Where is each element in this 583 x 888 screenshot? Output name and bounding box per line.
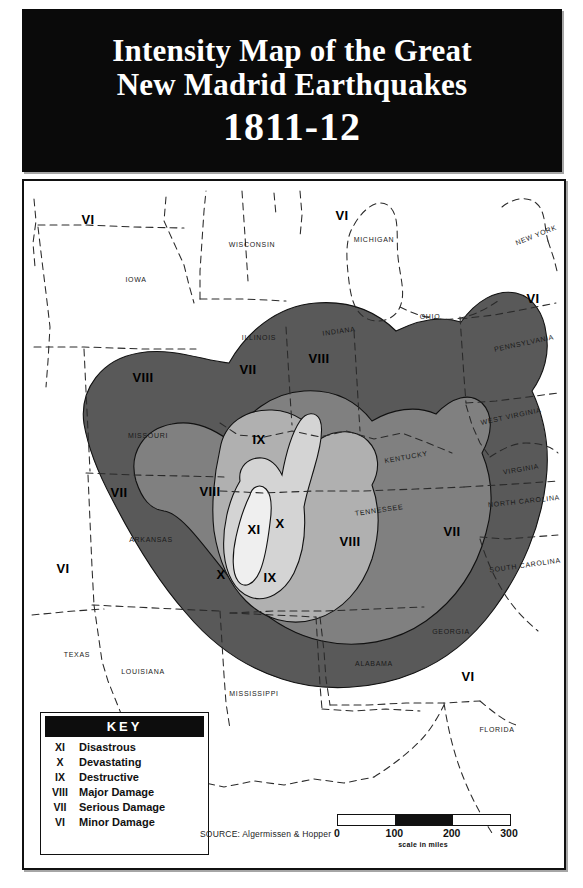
- state-label: ALABAMA: [355, 660, 393, 667]
- key-description: Minor Damage: [79, 816, 208, 828]
- intensity-label: VII: [443, 524, 460, 539]
- key-rows: XIDisastrousXDevastatingIXDestructiveVII…: [41, 739, 208, 829]
- map-frame: WISCONSINMICHIGANNEW YORKIOWAILLINOISIND…: [22, 179, 566, 870]
- title-year: 1811-12: [223, 107, 361, 148]
- intensity-label: VI: [335, 208, 348, 223]
- key-roman: VI: [41, 816, 79, 828]
- intensity-label: XI: [247, 522, 260, 537]
- intensity-label: VIII: [132, 370, 153, 385]
- state-label: FLORIDA: [479, 726, 514, 733]
- title-banner: Intensity Map of the Great New Madrid Ea…: [22, 9, 562, 172]
- key-roman: IX: [41, 771, 79, 783]
- title-line-2: New Madrid Earthquakes: [117, 69, 468, 101]
- key-header: KEY: [45, 716, 204, 737]
- scale-segment: [338, 815, 395, 825]
- key-row: VIISerious Damage: [41, 799, 208, 814]
- key-description: Serious Damage: [79, 801, 208, 813]
- intensity-label: VII: [239, 362, 256, 377]
- key-roman: VIII: [41, 786, 79, 798]
- state-label: ILLINOIS: [242, 334, 276, 341]
- intensity-label: VI: [461, 669, 474, 684]
- source-note: SOURCE: Algermissen & Hopper: [200, 829, 331, 839]
- scale-tick-label: 0: [334, 827, 340, 839]
- key-description: Major Damage: [79, 786, 208, 798]
- title-line-1: Intensity Map of the Great: [112, 35, 471, 67]
- state-label: LOUISIANA: [121, 668, 165, 675]
- intensity-label: VIII: [199, 484, 220, 499]
- intensity-label: VI: [56, 561, 69, 576]
- scale-segment: [453, 815, 510, 825]
- key-row: XIDisastrous: [41, 739, 208, 754]
- intensity-label: X: [275, 516, 284, 531]
- key-roman: XI: [41, 741, 79, 753]
- key-row: VIIIMajor Damage: [41, 784, 208, 799]
- intensity-label: X: [216, 567, 225, 582]
- state-label: TEXAS: [64, 651, 90, 658]
- intensity-label: VIII: [308, 351, 329, 366]
- intensity-label: IX: [263, 570, 276, 585]
- state-label: WISCONSIN: [229, 241, 276, 248]
- state-label: GEORGIA: [432, 628, 470, 635]
- key-row: VIMinor Damage: [41, 814, 208, 829]
- key-description: Devastating: [79, 756, 208, 768]
- key-roman: X: [41, 756, 79, 768]
- state-label: IOWA: [125, 276, 146, 283]
- key-roman: VII: [41, 801, 79, 813]
- key-legend-box: KEY XIDisastrousXDevastatingIXDestructiv…: [40, 712, 209, 855]
- key-row: XDevastating: [41, 754, 208, 769]
- state-label: ARKANSAS: [129, 536, 173, 543]
- scale-caption: scale in miles: [337, 841, 509, 848]
- intensity-label: VI: [526, 291, 539, 306]
- state-label: OHIO: [420, 313, 441, 320]
- scale-bar-group: 0100200300 scale in miles: [337, 814, 513, 848]
- scale-tick-label: 300: [500, 827, 518, 839]
- scale-tick-labels: 0100200300: [337, 827, 509, 840]
- state-label: MICHIGAN: [354, 236, 395, 243]
- key-description: Destructive: [79, 771, 208, 783]
- scale-bar: [337, 814, 511, 826]
- scale-segment: [395, 815, 452, 825]
- intensity-label: VII: [110, 485, 127, 500]
- state-label: MISSOURI: [128, 432, 168, 439]
- intensity-label: VIII: [339, 534, 360, 549]
- poster-page: Intensity Map of the Great New Madrid Ea…: [0, 0, 583, 888]
- scale-tick-label: 200: [443, 827, 461, 839]
- key-row: IXDestructive: [41, 769, 208, 784]
- state-label: MISSISSIPPI: [229, 690, 278, 697]
- scale-tick-label: 100: [386, 827, 404, 839]
- intensity-label: IX: [252, 432, 265, 447]
- key-description: Disastrous: [79, 741, 208, 753]
- intensity-label: VI: [81, 212, 94, 227]
